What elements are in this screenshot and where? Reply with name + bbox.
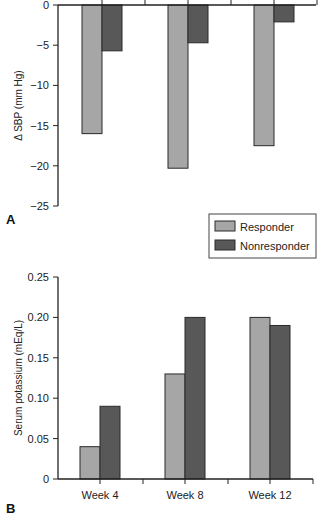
- y-tick-label: −25: [30, 200, 49, 212]
- y-tick-label: 0.20: [28, 311, 49, 323]
- y-tick-label: 0: [43, 0, 49, 11]
- legend: ResponderNonresponder: [209, 214, 316, 258]
- bar-nonresponder-week-8: [188, 5, 208, 43]
- bar-responder-week-12: [254, 5, 274, 146]
- x-category-label: Week 12: [248, 489, 291, 501]
- y-tick-label: −15: [30, 120, 49, 132]
- y-axis-title: Δ SBP (mm Hg): [13, 70, 24, 140]
- bar-nonresponder-week-4: [102, 5, 122, 51]
- y-axis-title: Serum potassium (mEq/L): [13, 320, 24, 436]
- y-tick-label: 0.05: [28, 433, 49, 445]
- legend-swatch-responder: [215, 221, 235, 231]
- bar-responder-week-4: [82, 5, 102, 134]
- legend-label: Responder: [240, 221, 294, 233]
- x-category-label: Week 8: [166, 489, 203, 501]
- y-tick-label: 0: [43, 473, 49, 485]
- panel-label: B: [6, 501, 15, 516]
- legend-label: Nonresponder: [240, 240, 310, 252]
- figure: 0−5−10−15−20−25Δ SBP (mm Hg)A ResponderN…: [0, 0, 323, 521]
- bar-responder-week-8: [165, 374, 185, 479]
- y-tick-label: 0.15: [28, 352, 49, 364]
- y-tick-label: −20: [30, 160, 49, 172]
- bar-responder-week-8: [168, 5, 188, 168]
- legend-swatch-nonresponder: [215, 240, 235, 250]
- y-tick-label: −10: [30, 79, 49, 91]
- x-category-label: Week 4: [81, 489, 118, 501]
- bar-nonresponder-week-12: [270, 325, 290, 479]
- panel-label: A: [6, 212, 16, 227]
- bar-nonresponder-week-12: [274, 5, 294, 22]
- y-tick-label: 0.10: [28, 392, 49, 404]
- panel-b-chart: 00.050.100.150.200.25Week 4Week 8Week 12…: [6, 271, 313, 516]
- y-tick-label: −5: [36, 39, 49, 51]
- bar-nonresponder-week-8: [185, 317, 205, 479]
- bar-nonresponder-week-4: [100, 406, 120, 479]
- y-tick-label: 0.25: [28, 271, 49, 283]
- bar-responder-week-4: [80, 447, 100, 479]
- panel-a-chart: 0−5−10−15−20−25Δ SBP (mm Hg)A: [6, 0, 317, 227]
- bar-responder-week-12: [250, 317, 270, 479]
